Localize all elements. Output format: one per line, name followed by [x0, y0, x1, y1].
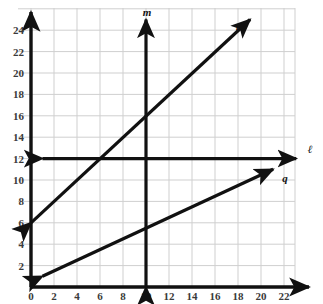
y-tick-label: 2 [19, 260, 25, 272]
y-axis-tick-labels: 2 4 6 8 10 12 14 16 18 20 22 24 [13, 24, 25, 271]
y-tick-label: 24 [13, 24, 25, 36]
coordinate-grid-diagram: 0 2 4 6 8 10 12 14 16 18 20 22 2 4 6 8 1… [0, 0, 323, 304]
grid-horizontal-lines [18, 9, 295, 266]
y-tick-label: 14 [13, 131, 25, 143]
graph-svg: 0 2 4 6 8 10 12 14 16 18 20 22 2 4 6 8 1… [0, 0, 323, 304]
line-label-q: q [282, 172, 288, 184]
y-tick-label: 18 [13, 88, 25, 100]
x-tick-label: 0 [28, 290, 34, 302]
x-tick-label: 8 [120, 290, 126, 302]
y-tick-label: 16 [13, 110, 25, 122]
y-tick-label: 20 [13, 67, 25, 79]
x-axis-tick-labels: 0 2 4 6 8 10 12 14 16 18 20 22 [28, 290, 290, 302]
x-tick-label: 14 [187, 290, 199, 302]
x-tick-label: 22 [279, 290, 291, 302]
y-tick-label: 8 [19, 195, 25, 207]
y-tick-label: 4 [19, 238, 25, 250]
x-tick-label: 12 [164, 290, 176, 302]
x-tick-label: 20 [256, 290, 268, 302]
x-tick-label: 16 [210, 290, 222, 302]
line-label-m: m [143, 6, 152, 18]
line-n [31, 20, 250, 223]
y-tick-label: 22 [13, 46, 25, 58]
x-tick-label: 2 [51, 290, 57, 302]
x-tick-label: 6 [97, 290, 103, 302]
gridlines [18, 8, 295, 287]
x-tick-label: 4 [74, 290, 80, 302]
x-tick-label: 18 [233, 290, 245, 302]
y-tick-label: 6 [19, 217, 25, 229]
axes [31, 12, 309, 287]
y-tick-label: 12 [13, 153, 25, 165]
line-label-l: ℓ [308, 143, 313, 155]
line-label-n: n [236, 20, 242, 32]
grid-vertical-lines [31, 8, 295, 287]
y-tick-label: 10 [13, 174, 25, 186]
x-tick-label: 10 [141, 290, 153, 302]
